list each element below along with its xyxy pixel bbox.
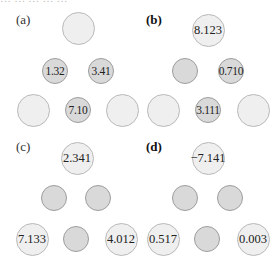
small-node-circle: 3.111 (195, 97, 221, 123)
large-node-circle: 8.123 (192, 14, 225, 47)
small-node-circle (172, 185, 198, 211)
panel-label: (c) (16, 140, 30, 153)
large-node-circle (147, 94, 180, 127)
large-node-circle: 7.133 (16, 223, 49, 256)
panel-label: (a) (16, 13, 30, 26)
small-node-circle: 7.10 (65, 97, 91, 123)
small-node-circle (41, 185, 67, 211)
small-node-circle: 1.32 (42, 58, 68, 84)
panel-label: (d) (146, 140, 162, 153)
large-node-circle: 0.517 (147, 223, 180, 256)
small-node-circle (194, 226, 220, 252)
small-node-circle: 3.41 (88, 58, 114, 84)
large-node-circle (17, 94, 50, 127)
large-node-circle (237, 94, 270, 127)
large-node-circle: 0.003 (237, 223, 270, 256)
cutoff-caption-text: … … … … … (0, 0, 278, 4)
panel-label: (b) (146, 13, 162, 26)
large-node-circle: 4.012 (105, 223, 138, 256)
small-node-circle (85, 185, 111, 211)
small-node-circle (172, 58, 198, 84)
small-node-circle (63, 226, 89, 252)
large-node-circle: 2.341 (61, 142, 94, 175)
large-node-circle: −7.141 (192, 142, 225, 175)
large-node-circle (62, 12, 95, 45)
small-node-circle: 0.710 (218, 58, 244, 84)
large-node-circle (106, 94, 139, 127)
small-node-circle (217, 185, 243, 211)
